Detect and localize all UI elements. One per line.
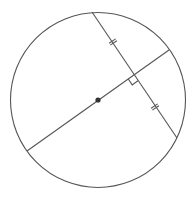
center-point	[95, 97, 100, 102]
perpendicular-chord	[92, 12, 177, 138]
diagram-canvas	[0, 0, 193, 200]
circle-chord-diagram	[0, 0, 193, 200]
right-angle-marker	[128, 79, 138, 85]
